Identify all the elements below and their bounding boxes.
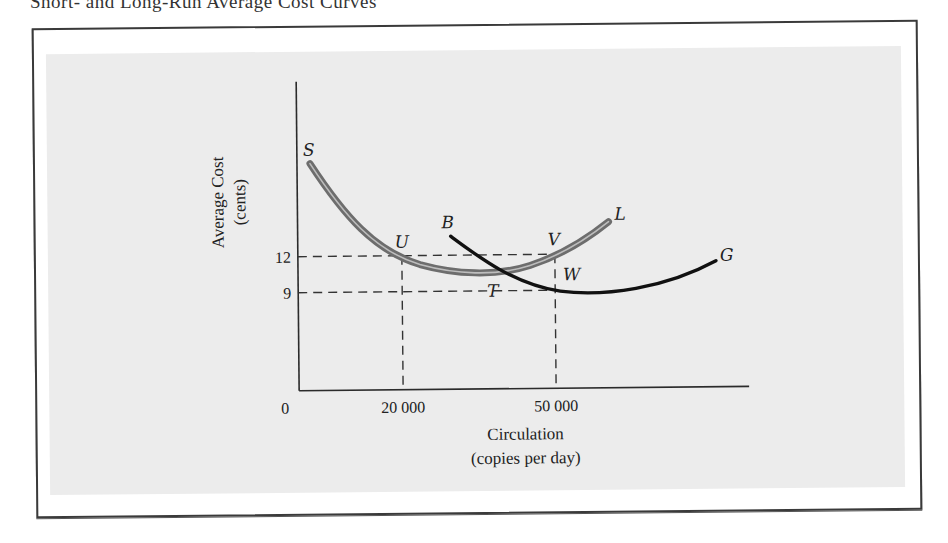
average-cost-chart: S L B G U V W T 12 9 0 20 000 50 000 Cir… xyxy=(0,0,948,543)
label-s: S xyxy=(303,140,315,160)
y-axis-subtitle: (cents) xyxy=(230,179,249,225)
x-tick-20000: 20 000 xyxy=(381,398,425,415)
y-tick-12: 12 xyxy=(275,249,291,266)
ref-line-20000 xyxy=(402,256,403,390)
curve-sl xyxy=(310,161,609,275)
label-g: G xyxy=(720,245,734,265)
reference-lines xyxy=(298,254,557,390)
x-axis-subtitle: (copies per day) xyxy=(471,448,581,468)
label-l: L xyxy=(613,204,625,224)
label-b: B xyxy=(440,212,454,232)
ref-line-12 xyxy=(298,254,556,256)
x-tick-0: 0 xyxy=(281,400,289,417)
label-t: T xyxy=(487,281,500,301)
y-axis-title: Average Cost xyxy=(208,156,228,248)
x-axis-title: Circulation xyxy=(487,424,564,444)
ref-line-9 xyxy=(298,290,556,292)
label-w: W xyxy=(563,264,582,284)
label-v: V xyxy=(548,229,562,249)
ref-line-50000 xyxy=(555,254,556,388)
y-axis xyxy=(296,82,299,391)
label-u: U xyxy=(395,232,410,252)
y-tick-9: 9 xyxy=(283,285,291,302)
x-axis xyxy=(299,386,749,390)
x-tick-50000: 50 000 xyxy=(534,397,578,414)
